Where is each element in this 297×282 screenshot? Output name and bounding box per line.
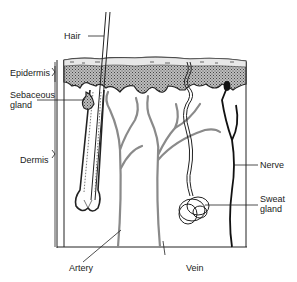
blood-vessels [106,92,220,247]
label-hair: Hair [64,31,81,41]
nerve [222,82,237,247]
label-dermis: Dermis [20,155,49,165]
label-sebaceous-line2: gland [10,100,32,110]
label-vein: Vein [186,263,204,273]
sebaceous-gland [82,92,94,109]
hair-follicle [76,12,111,211]
label-sebaceous-line1: Sebaceous [10,90,55,100]
label-sweat-line1: Sweat [260,194,285,204]
label-epidermis: Epidermis [10,68,50,78]
skin-diagram [0,0,297,282]
label-nerve: Nerve [260,160,284,170]
epidermis-layer [64,57,246,93]
label-artery: Artery [69,263,93,273]
label-sweat-line2: gland [260,204,282,214]
